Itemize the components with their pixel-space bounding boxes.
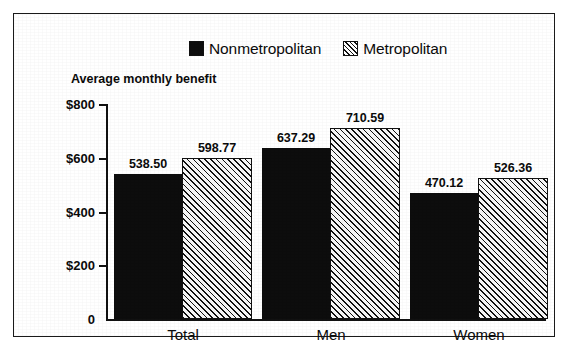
chart-legend: Nonmetropolitan Metropolitan [189,41,447,57]
legend-entry-nonmetropolitan: Nonmetropolitan [189,41,321,57]
legend-entry-metropolitan: Metropolitan [343,41,447,57]
x-axis-line [106,319,546,321]
legend-label-metropolitan: Metropolitan [363,41,447,57]
bar-value-label: 538.50 [129,157,167,171]
y-tick-label: $800 [66,97,95,112]
bar-total-metropolitan[interactable]: 598.77 [182,158,252,319]
bar-women-nonmetropolitan[interactable]: 470.12 [410,193,478,319]
figure-frame-border: Nonmetropolitan Metropolitan Average mon… [13,13,555,337]
y-axis-title: Average monthly benefit [71,72,216,86]
bar-men-nonmetropolitan[interactable]: 637.29 [262,148,330,319]
legend-label-nonmetropolitan: Nonmetropolitan [209,41,321,57]
bar-value-label: 598.77 [198,141,236,155]
bar-value-label: 470.12 [425,176,463,190]
y-tick-mark [99,158,107,160]
legend-swatch-diagonal-hatch-square-icon [343,41,358,56]
y-tick-label: $200 [66,258,95,273]
bar-value-label: 637.29 [277,131,315,145]
bar-total-nonmetropolitan[interactable]: 538.50 [114,174,182,319]
y-tick-mark [99,265,107,267]
y-tick-label: $400 [66,204,95,219]
category-label-men: Men [316,326,345,343]
y-tick-label: $600 [66,150,95,165]
legend-swatch-solid-black-square-icon [189,41,204,56]
bar-women-metropolitan[interactable]: 526.36 [478,178,548,320]
y-tick-mark [99,104,107,106]
category-label-total: Total [167,326,199,343]
y-tick-mark [99,212,107,214]
plot-area: $800 $600 $400 $200 0 538.50 598. [106,104,546,319]
y-tick-label: 0 [88,312,95,327]
category-label-women: Women [453,326,504,343]
bar-value-label: 710.59 [346,111,384,125]
figure-container: Nonmetropolitan Metropolitan Average mon… [0,0,575,355]
bar-value-label: 526.36 [494,161,532,175]
bar-men-metropolitan[interactable]: 710.59 [330,128,400,319]
